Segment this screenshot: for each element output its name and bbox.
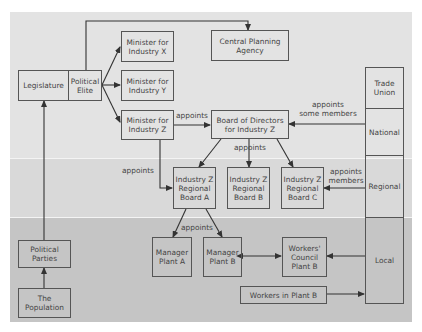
workers-in-plant-box: Workers in Plant B xyxy=(240,286,327,304)
edge-label-minister-regional: appoints xyxy=(118,166,158,175)
trade-union-regional: Regional xyxy=(365,155,404,218)
minister-y-box: Minister for Industry Y xyxy=(121,70,174,101)
regional-board-b-box: Industry Z Regional Board B xyxy=(227,167,270,209)
population-box: The Population xyxy=(18,288,71,318)
central-planning-agency-box: Central Planning Agency xyxy=(211,30,289,61)
workers-council-box: Workers' Council Plant B xyxy=(282,237,327,277)
edge-label-union-board: appoints some members xyxy=(292,100,364,118)
trade-union-header: Trade Union xyxy=(365,67,404,109)
regional-board-a-box: Industry Z Regional Board A xyxy=(173,167,216,209)
edge-label-union-regional: appoints members xyxy=(327,167,365,185)
manager-plant-b-box: Manager Plant B xyxy=(203,237,242,277)
minister-x-box: Minister for Industry X xyxy=(121,31,174,62)
edge-label-minister-board: appoints xyxy=(175,111,209,120)
political-elite-box: Political Elite xyxy=(68,70,102,101)
legislature-box: Legislature xyxy=(18,70,69,101)
trade-union-local: Local xyxy=(365,217,404,304)
edge-label-regional-managers: appoints xyxy=(178,223,216,232)
minister-z-box: Minister for Industry Z xyxy=(121,110,174,140)
board-of-directors-box: Board of Directors for Industry Z xyxy=(211,110,289,139)
manager-plant-a-box: Manager Plant A xyxy=(152,237,192,277)
regional-board-c-box: Industry Z Regional Board C xyxy=(281,167,324,209)
edge-label-board-regional: appoints xyxy=(232,143,268,152)
trade-union-national: National xyxy=(365,108,404,156)
political-parties-box: Political Parties xyxy=(18,240,71,268)
